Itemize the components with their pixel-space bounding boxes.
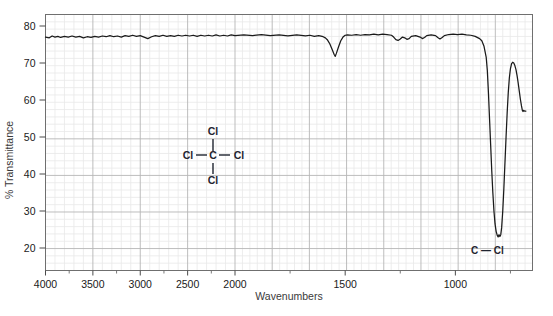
y-tick-label: 60 <box>24 94 36 106</box>
y-tick-label: 50 <box>24 131 36 143</box>
x-tick-label: 2000 <box>223 278 247 290</box>
ir-spectrum-figure: 4000350030002500200015001000 80706050403… <box>0 0 553 316</box>
spectrum-chart: 4000350030002500200015001000 80706050403… <box>0 0 553 316</box>
structure-right-cl: Cl <box>234 149 245 161</box>
y-tick-label: 80 <box>24 20 36 32</box>
x-tick-label: 1500 <box>334 278 358 290</box>
structure-bottom-cl: Cl <box>208 174 219 186</box>
x-axis-title: Wavenumbers <box>255 290 322 302</box>
y-tick-label: 20 <box>24 242 36 254</box>
x-tick-label: 2500 <box>176 278 200 290</box>
structure-top-cl: Cl <box>208 125 219 137</box>
y-axis-title: % Transmittance <box>3 121 15 199</box>
x-tick-label: 3000 <box>129 278 153 290</box>
c-cl-peak-label: C — Cl <box>471 245 504 256</box>
chart-background <box>0 0 553 316</box>
x-tick-label: 4000 <box>34 278 58 290</box>
x-tick-label: 3500 <box>81 278 105 290</box>
structure-center-c: C <box>209 149 217 161</box>
c-cl-annotation: C — Cl <box>471 245 504 256</box>
y-tick-label: 40 <box>24 168 36 180</box>
x-tick-label: 1000 <box>444 278 468 290</box>
structure-left-cl: Cl <box>183 149 194 161</box>
y-tick-label: 30 <box>24 205 36 217</box>
y-tick-label: 70 <box>24 57 36 69</box>
